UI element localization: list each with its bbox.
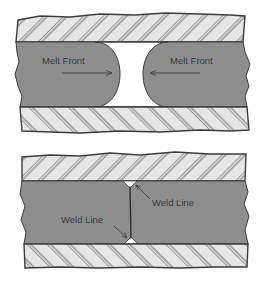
right-melt-front-label: Melt Front	[170, 55, 213, 66]
lower-weld-line-label: Weld Line	[61, 214, 103, 225]
top-upper-mold-wall	[16, 13, 245, 42]
top-lower-mold-wall	[20, 107, 249, 133]
bottom-lower-mold-wall	[24, 244, 248, 268]
bottom-upper-mold-wall	[22, 152, 246, 181]
top-panel: Melt Front Melt Front	[15, 13, 250, 133]
bottom-filled-melt	[20, 181, 249, 244]
weld-line-diagram: Melt Front Melt Front Weld Line Weld Lin…	[0, 0, 266, 283]
right-melt-front	[143, 42, 250, 107]
left-melt-front-label: Melt Front	[42, 55, 85, 66]
left-melt-front	[15, 42, 120, 107]
weld-line	[130, 187, 131, 238]
upper-weld-line-label: Weld Line	[152, 197, 194, 208]
bottom-panel: Weld Line Weld Line	[20, 152, 249, 268]
